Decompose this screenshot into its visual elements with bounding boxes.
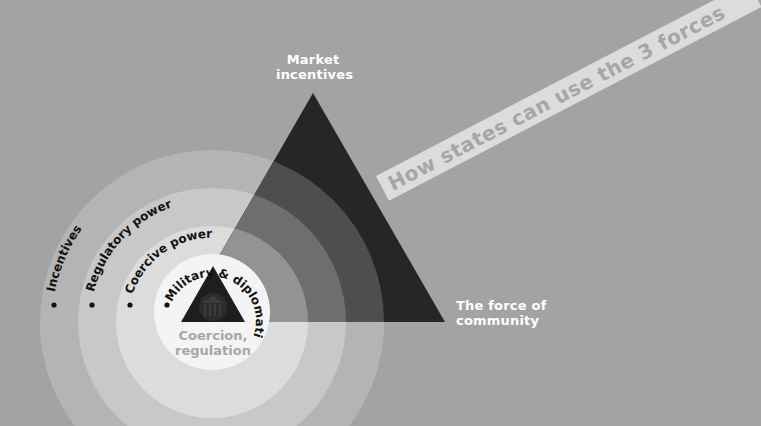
bullet-incentives <box>51 302 56 307</box>
bullet-military <box>164 302 169 307</box>
market-incentives-label: Market incentives <box>276 52 350 82</box>
center-label-line1: Coercion, <box>179 328 248 343</box>
force-of-community-label: The force of community <box>456 298 547 328</box>
bullet-coercive <box>127 302 132 307</box>
force-of-community-line1: The force of <box>456 298 547 313</box>
force-of-community-line2: community <box>456 313 547 328</box>
center-label-line2: regulation <box>175 343 251 358</box>
market-incentives-line2: incentives <box>276 67 350 82</box>
bullet-regulatory <box>89 302 94 307</box>
market-incentives-line1: Market <box>276 52 350 67</box>
